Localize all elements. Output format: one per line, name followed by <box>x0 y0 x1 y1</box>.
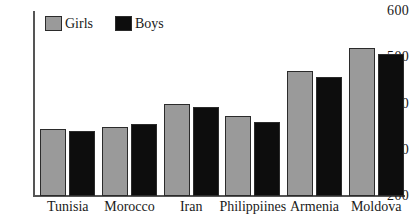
legend-swatch-icon <box>45 16 62 31</box>
bar-boys-iran[interactable] <box>193 107 219 196</box>
bar-boys-philippiines[interactable] <box>254 122 280 196</box>
bar-girls-iran[interactable] <box>164 104 190 197</box>
plot-area <box>35 11 405 196</box>
bar-girls-armenia[interactable] <box>287 71 313 196</box>
bar-boys-morocco[interactable] <box>131 124 157 196</box>
legend-swatch-icon <box>115 16 132 31</box>
bar-girls-tunisia[interactable] <box>40 129 66 196</box>
bar-group <box>40 11 95 196</box>
bar-girls-moldova[interactable] <box>349 48 375 196</box>
bar-boys-armenia[interactable] <box>316 77 342 196</box>
bar-group <box>164 11 219 196</box>
bar-group <box>349 11 404 196</box>
bar-boys-tunisia[interactable] <box>69 131 95 196</box>
bar-group <box>287 11 342 196</box>
bar-boys-moldova[interactable] <box>378 54 404 196</box>
bar-group <box>102 11 157 196</box>
bar-group <box>225 11 280 196</box>
bar-girls-morocco[interactable] <box>102 127 128 196</box>
x-axis-tick-moldova: Moldova <box>316 199 409 215</box>
bar-girls-philippiines[interactable] <box>225 116 251 196</box>
legend-label: Girls <box>65 17 93 31</box>
chart-legend: GirlsBoys <box>45 16 164 31</box>
legend-item-boys[interactable]: Boys <box>115 16 164 31</box>
legend-item-girls[interactable]: Girls <box>45 16 93 31</box>
bar-chart: 200300400500600 TunisiaMoroccoIranPhilip… <box>0 0 409 220</box>
legend-label: Boys <box>135 17 164 31</box>
